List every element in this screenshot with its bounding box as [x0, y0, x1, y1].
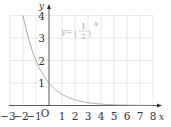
x-tick-labels: −3−2−112345678: [0, 110, 156, 122]
x-axis-arrow-icon: [157, 104, 162, 108]
origin-label: O: [41, 107, 50, 119]
exponential-chart: −3−2−112345678 1234 x y O y= ( 1 2 ) x: [0, 0, 171, 127]
y-axis-label: y: [38, 1, 45, 11]
equation-prefix: y=: [60, 27, 72, 36]
y-tick-label: 2: [38, 55, 45, 67]
x-tick-label: 3: [85, 110, 92, 122]
y-axis-arrow-icon: [47, 4, 51, 9]
x-tick-label: 2: [72, 110, 79, 122]
fraction-numerator: 1: [81, 22, 86, 31]
x-tick-label: 7: [137, 110, 144, 122]
y-tick-label: 3: [38, 32, 45, 44]
exponent: x: [94, 19, 99, 28]
right-paren: ): [88, 29, 91, 38]
fraction-denominator: 2: [81, 32, 86, 41]
x-tick-label: −1: [26, 110, 41, 122]
x-tick-label: 1: [59, 110, 66, 122]
x-axis-label: x: [159, 112, 164, 122]
axes: [9, 4, 162, 108]
y-tick-label: 1: [38, 77, 45, 89]
y-tick-labels: 1234: [38, 10, 45, 90]
y-tick-label: 4: [38, 10, 45, 22]
x-tick-label: 4: [98, 110, 105, 122]
x-tick-label: 5: [111, 110, 118, 122]
x-tick-label: 6: [124, 110, 131, 122]
x-tick-label: 8: [150, 110, 157, 122]
left-paren: (: [74, 29, 77, 38]
